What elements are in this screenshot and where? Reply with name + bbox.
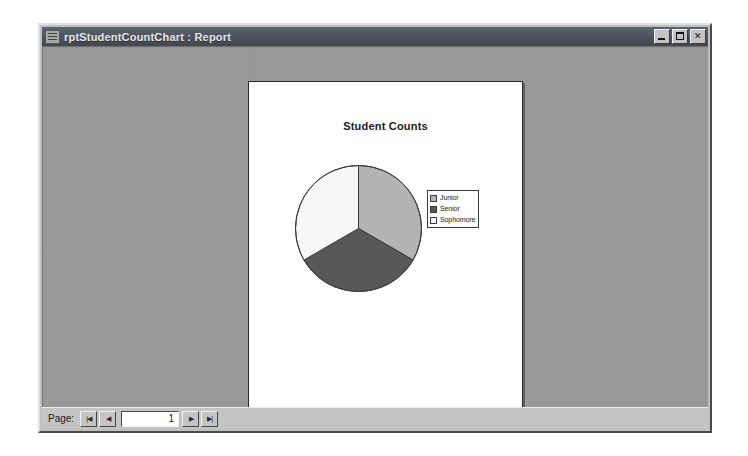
window-title-bar[interactable]: rptStudentCountChart : Report ✕ (42, 27, 708, 46)
legend-item-senior: Senior (430, 204, 475, 214)
report-preview-window: rptStudentCountChart : Report ✕ Student … (38, 23, 712, 433)
last-page-button[interactable]: ▶| (201, 411, 218, 427)
previous-page-button[interactable]: ◀ (99, 411, 116, 427)
chart-legend: Junior Senior Sophomore (427, 190, 479, 228)
window-title: rptStudentCountChart : Report (64, 31, 654, 43)
legend-label-sophomore: Sophomore (440, 216, 475, 224)
print-preview-area[interactable]: Student Counts (42, 46, 708, 407)
page-navigation-bar: Page: |◀ ◀ ▶ ▶| (42, 407, 708, 429)
pie-slices (296, 166, 422, 292)
legend-label-senior: Senior (440, 205, 460, 213)
minimize-button[interactable] (654, 29, 670, 44)
page-label: Page: (48, 413, 74, 424)
minimize-icon (658, 38, 665, 40)
report-page: Student Counts (248, 81, 523, 407)
legend-swatch-junior (430, 195, 437, 202)
legend-label-junior: Junior (440, 194, 458, 202)
pie-chart (292, 162, 425, 295)
report-document-icon (45, 30, 60, 44)
next-page-button[interactable]: ▶ (182, 411, 199, 427)
maximize-icon (676, 32, 684, 40)
page-number-input[interactable] (121, 411, 179, 427)
legend-item-junior: Junior (430, 193, 475, 203)
screen: rptStudentCountChart : Report ✕ Student … (0, 0, 748, 456)
legend-swatch-senior (430, 206, 437, 213)
first-page-button[interactable]: |◀ (80, 411, 97, 427)
close-icon: ✕ (691, 30, 705, 43)
legend-item-sophomore: Sophomore (430, 215, 475, 225)
maximize-button[interactable] (672, 29, 688, 44)
chart-title: Student Counts (249, 120, 522, 132)
window-controls: ✕ (654, 29, 706, 44)
legend-swatch-sophomore (430, 217, 437, 224)
close-button[interactable]: ✕ (690, 29, 706, 44)
pie-chart-svg (292, 162, 425, 295)
